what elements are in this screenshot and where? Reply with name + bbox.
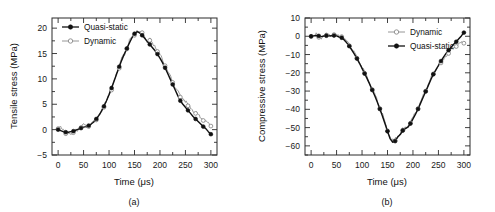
open-circle-icon	[394, 30, 398, 34]
y-tick-label: −40	[286, 104, 301, 114]
legend-entry-quasi-static-a: Quasi-static	[62, 22, 128, 32]
x-tick-label: 250	[431, 160, 445, 170]
x-tick-label: 200	[153, 160, 167, 170]
open-circle-icon	[186, 104, 190, 108]
legend-label-quasi-static-b: Quasi-static	[410, 41, 454, 51]
filled-circle-icon	[194, 117, 198, 121]
filled-circle-icon	[309, 34, 313, 38]
curve-dynamic	[58, 30, 211, 134]
x-tick-labels-b: 050100150200250300	[309, 160, 472, 170]
filled-circle-icon	[178, 99, 182, 103]
filled-circle-icon	[347, 44, 351, 48]
filled-circle-icon	[431, 72, 435, 76]
filled-circle-icon	[110, 86, 114, 90]
x-tick-label: 50	[79, 160, 89, 170]
x-tick-label: 100	[102, 160, 116, 170]
legend-entry-quasi-static-b: Quasi-static	[388, 41, 454, 51]
filled-circle-icon	[424, 90, 428, 94]
legend-entry-dynamic-a: Dynamic	[62, 36, 116, 46]
filled-circle-icon	[394, 44, 398, 48]
legend-a: Quasi-static Dynamic	[62, 22, 128, 46]
filled-circle-icon	[363, 72, 367, 76]
y-tick-label: 15	[38, 49, 48, 59]
legend-b: Dynamic Quasi-static	[388, 27, 454, 51]
filled-circle-icon	[393, 139, 397, 143]
x-tick-label: 150	[380, 160, 394, 170]
filled-circle-icon	[163, 66, 167, 70]
plot-frame-b	[305, 18, 470, 155]
filled-circle-icon	[102, 104, 106, 108]
x-tick-label: 0	[309, 160, 314, 170]
open-circle-icon	[148, 38, 152, 42]
open-circle-icon	[209, 124, 213, 128]
open-circle-icon	[68, 39, 72, 43]
y-tick-label: 10	[38, 74, 48, 84]
panel-b-plot-area	[305, 18, 470, 155]
x-axis-title-b: Time (μs)	[367, 176, 407, 187]
x-tick-label: 100	[355, 160, 369, 170]
panel-caption-b: (b)	[382, 197, 393, 207]
y-tick-label: 20	[38, 23, 48, 33]
open-circle-icon	[194, 111, 198, 115]
filled-circle-icon	[409, 122, 413, 126]
filled-circle-icon	[171, 83, 175, 87]
filled-circle-icon	[56, 128, 60, 132]
y-tick-label: 0	[295, 31, 300, 41]
filled-circle-icon	[340, 36, 344, 40]
x-tick-labels-a: 050100150200250300	[56, 160, 219, 170]
markers-quasi-static-a	[56, 32, 213, 136]
markers-dynamic-a	[56, 31, 213, 136]
filled-circle-icon	[401, 129, 405, 133]
x-tick-label: 50	[332, 160, 342, 170]
panel-a: 050100150200250300 −505101520 Time (μs) …	[0, 0, 247, 212]
filled-circle-icon	[201, 125, 205, 129]
legend-entry-dynamic-b: Dynamic	[388, 27, 442, 37]
filled-circle-icon	[332, 34, 336, 38]
filled-circle-icon	[148, 42, 152, 46]
x-tick-label: 300	[457, 160, 471, 170]
y-tick-label: 0	[42, 125, 47, 135]
panel-caption-a: (a)	[129, 197, 140, 207]
filled-circle-icon	[378, 107, 382, 111]
filled-circle-icon	[71, 129, 75, 133]
filled-circle-icon	[462, 31, 466, 35]
x-tick-label: 150	[127, 160, 141, 170]
panel-b: 050100150200250300 −60−50−40−30−20−10010…	[248, 0, 495, 212]
y-tick-label: 5	[42, 99, 47, 109]
y-axis-title-b: Compressive stress (MPa)	[256, 30, 267, 142]
y-tick-labels-b: −60−50−40−30−20−10010	[286, 13, 301, 151]
panel-b-svg: 050100150200250300 −60−50−40−30−20−10010…	[248, 0, 495, 212]
plot-frame-a	[52, 18, 217, 155]
x-tick-label: 200	[406, 160, 420, 170]
y-axis-title-a: Tensile stress (MPa)	[8, 43, 19, 129]
filled-circle-icon	[79, 126, 83, 130]
filled-circle-icon	[156, 52, 160, 56]
filled-circle-icon	[317, 34, 321, 38]
y-tick-label: −20	[286, 68, 301, 78]
filled-circle-icon	[209, 132, 213, 136]
legend-label-dynamic-b: Dynamic	[410, 27, 442, 37]
axis-ticks-a	[52, 18, 217, 155]
x-axis-title-a: Time (μs)	[114, 176, 154, 187]
x-tick-label: 0	[56, 160, 61, 170]
open-circle-icon	[462, 41, 466, 45]
filled-circle-icon	[87, 124, 91, 128]
x-tick-label: 250	[178, 160, 192, 170]
series-dynamic-a	[58, 30, 211, 134]
filled-circle-icon	[454, 40, 458, 44]
filled-circle-icon	[64, 130, 68, 134]
filled-circle-icon	[140, 33, 144, 37]
filled-circle-icon	[386, 129, 390, 133]
curve-quasi-static	[58, 32, 211, 135]
filled-circle-icon	[125, 47, 129, 51]
filled-circle-icon	[355, 57, 359, 61]
y-tick-label: −30	[286, 86, 301, 96]
y-tick-label: −10	[286, 50, 301, 60]
x-tick-label: 300	[204, 160, 218, 170]
filled-circle-icon	[68, 25, 72, 29]
filled-circle-icon	[117, 65, 121, 69]
y-tick-label: 10	[291, 13, 301, 23]
open-circle-icon	[201, 119, 205, 123]
axis-ticks-b	[305, 18, 470, 155]
open-circle-icon	[178, 95, 182, 99]
